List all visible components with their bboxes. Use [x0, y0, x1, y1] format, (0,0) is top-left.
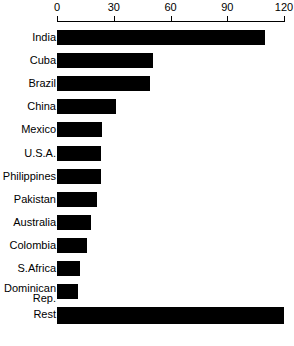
bar-row: S.Africa: [0, 260, 294, 283]
bar-category-label-line: Rep.: [0, 293, 56, 303]
bar-row: U.S.A.: [0, 145, 294, 168]
bar-category-label-line: Colombia: [0, 240, 56, 251]
bar-category-label-line: Brazil: [0, 78, 56, 89]
bar-category-label-line: Cuba: [0, 55, 56, 66]
bar-category-label: Philippines: [0, 171, 56, 182]
axis-tick-mark: [284, 16, 285, 22]
bar-category-label-line: Rest: [0, 309, 56, 320]
bar-row: DominicanRep.: [0, 283, 294, 306]
bar-category-label: Rest: [0, 309, 56, 320]
bar-category-label: S.Africa: [0, 263, 56, 274]
bar-category-label: Mexico: [0, 124, 56, 135]
chart-plot-area: IndiaCubaBrazilChinaMexicoU.S.A.Philippi…: [0, 28, 294, 346]
bar-category-label: China: [0, 101, 56, 112]
axis-tick-label: 60: [164, 1, 176, 13]
axis-tick-label: 90: [221, 1, 233, 13]
chart-x-axis: 0306090120: [0, 0, 294, 28]
bar-row: Rest: [0, 306, 294, 329]
bar: [57, 192, 97, 207]
bar-row: India: [0, 29, 294, 52]
bar-category-label: DominicanRep.: [0, 283, 56, 303]
axis-line: [57, 21, 284, 22]
bar-category-label-line: Mexico: [0, 124, 56, 135]
axis-tick-label: 120: [275, 1, 293, 13]
bar-row: Brazil: [0, 75, 294, 98]
bar: [57, 122, 102, 137]
bar: [57, 53, 153, 68]
bar-category-label: Colombia: [0, 240, 56, 251]
bar-category-label: Australia: [0, 217, 56, 228]
bar: [57, 146, 101, 161]
bar-category-label-line: S.Africa: [0, 263, 56, 274]
bar: [57, 238, 87, 253]
bar-category-label-line: U.S.A.: [0, 148, 56, 159]
bar: [57, 307, 284, 324]
bar: [57, 30, 265, 45]
bar-row: Colombia: [0, 237, 294, 260]
bar-row: Australia: [0, 214, 294, 237]
bar-row: Cuba: [0, 52, 294, 75]
bar: [57, 99, 116, 114]
bar-row: Pakistan: [0, 191, 294, 214]
bar-category-label-line: China: [0, 101, 56, 112]
axis-tick-label: 0: [54, 1, 60, 13]
bar-category-label-line: Philippines: [0, 171, 56, 182]
bar: [57, 215, 91, 230]
bar-category-label-line: Pakistan: [0, 194, 56, 205]
axis-tick-label: 30: [108, 1, 120, 13]
bar-row: Philippines: [0, 168, 294, 191]
bar-row: China: [0, 98, 294, 121]
bar-category-label-line: Australia: [0, 217, 56, 228]
bar-row: Mexico: [0, 121, 294, 144]
bar: [57, 169, 101, 184]
bar-category-label: Cuba: [0, 55, 56, 66]
bar-category-label: Pakistan: [0, 194, 56, 205]
bar: [57, 76, 150, 91]
bar-category-label-line: India: [0, 32, 56, 43]
bar-category-label: U.S.A.: [0, 148, 56, 159]
bar: [57, 284, 78, 299]
bar-category-label: Brazil: [0, 78, 56, 89]
bar-chart: 0306090120 IndiaCubaBrazilChinaMexicoU.S…: [0, 0, 294, 346]
bar-category-label: India: [0, 32, 56, 43]
bar: [57, 261, 80, 276]
